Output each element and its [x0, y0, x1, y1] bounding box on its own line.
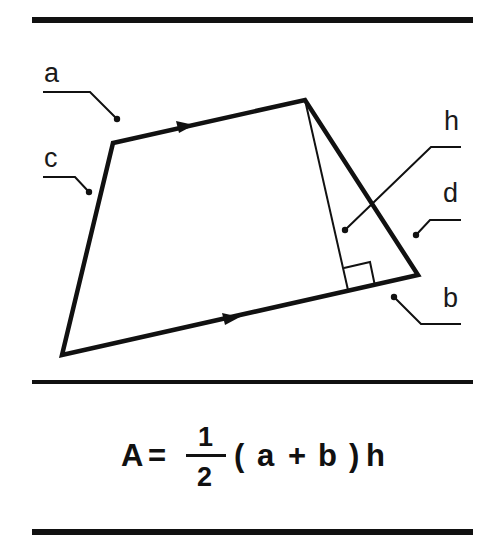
formula-denominator: 2	[197, 464, 212, 491]
formula-lhs: A	[121, 440, 143, 471]
formula-plus: +	[288, 440, 306, 471]
formula-h: h	[366, 440, 385, 471]
formula-open-paren: (	[234, 440, 244, 471]
fraction-bar	[186, 454, 226, 457]
area-formula: A = 1 2 ( a + b ) h	[0, 0, 490, 551]
formula-numerator: 1	[198, 424, 213, 451]
formula-a: a	[257, 440, 274, 471]
formula-equals: =	[148, 440, 166, 471]
formula-b: b	[318, 440, 337, 471]
formula-close-paren: )	[349, 440, 359, 471]
